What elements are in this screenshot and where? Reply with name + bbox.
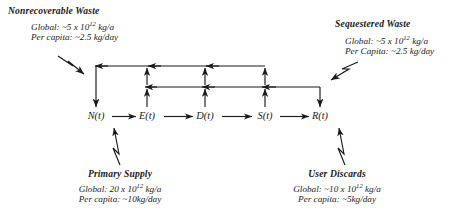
annotation-global-text-user-discards: Global: ~10 x 10	[293, 184, 356, 194]
node-label-D: D(t)	[196, 110, 213, 122]
node-label-R: R(t)	[312, 110, 328, 122]
annotation-global-exponent-primary-supply: 12	[137, 182, 144, 189]
nonrecoverable-waste-lightning-arrow	[58, 56, 84, 74]
annotation-title-user-discards: User Discards	[308, 168, 366, 179]
annotation-global-text-sequestered: Global: ~5 x 10	[345, 36, 403, 46]
primary-supply-lightning-arrow	[113, 128, 120, 165]
annotation-percapita-sequestered-waste: Per Capita: ~2.5 kg/day	[345, 46, 434, 57]
annotation-global-text-primary-supply: Global: 20 x 10	[79, 184, 137, 194]
annotation-global-user-discards: Global: ~10 x 1012 kg/a	[293, 182, 381, 195]
annotation-title-nonrecoverable-waste: Nonrecoverable Waste	[8, 5, 99, 16]
annotation-global-nonrecoverable-waste: Global: ~5 x 1012 kg/a	[31, 20, 114, 33]
annotation-title-primary-supply: Primary Supply	[88, 168, 152, 179]
annotation-global-primary-supply: Global: 20 x 1012 kg/a	[79, 182, 162, 195]
annotation-global-unit-primary-supply: kg/a	[143, 184, 161, 194]
annotation-percapita-nonrecoverable-waste: Per capita: ~2.5 kg/day	[31, 32, 118, 43]
annotation-percapita-user-discards: Per capita: ~5kg/day	[298, 194, 376, 205]
user-discards-lightning-arrow	[338, 128, 345, 165]
node-label-N: N(t)	[88, 110, 105, 122]
annotation-title-sequestered-waste: Sequestered Waste	[335, 18, 410, 29]
annotation-percapita-primary-supply: Per capita: ~10kg/day	[79, 194, 162, 205]
annotation-global-text-nonrecoverable: Global: ~5 x 10	[31, 22, 89, 32]
sequestered-waste-lightning-arrow	[331, 62, 358, 80]
annotation-global-exponent-nonrecoverable: 12	[89, 20, 96, 27]
diagram-canvas: N(t) E(t) D(t) S(t) R(t) Nonrecoverable …	[0, 0, 456, 219]
node-label-S: S(t)	[257, 110, 272, 122]
annotation-global-sequestered-waste: Global: ~5 x 1012 kg/a	[345, 34, 428, 47]
annotation-global-exponent-user-discards: 12	[356, 182, 363, 189]
annotation-global-unit-nonrecoverable: kg/a	[96, 22, 114, 32]
annotation-global-exponent-sequestered: 12	[403, 34, 410, 41]
sequestered-path	[145, 87, 320, 107]
annotation-global-unit-sequestered: kg/a	[410, 36, 428, 46]
annotation-global-unit-user-discards: kg/a	[363, 184, 381, 194]
node-label-E: E(t)	[139, 110, 155, 122]
